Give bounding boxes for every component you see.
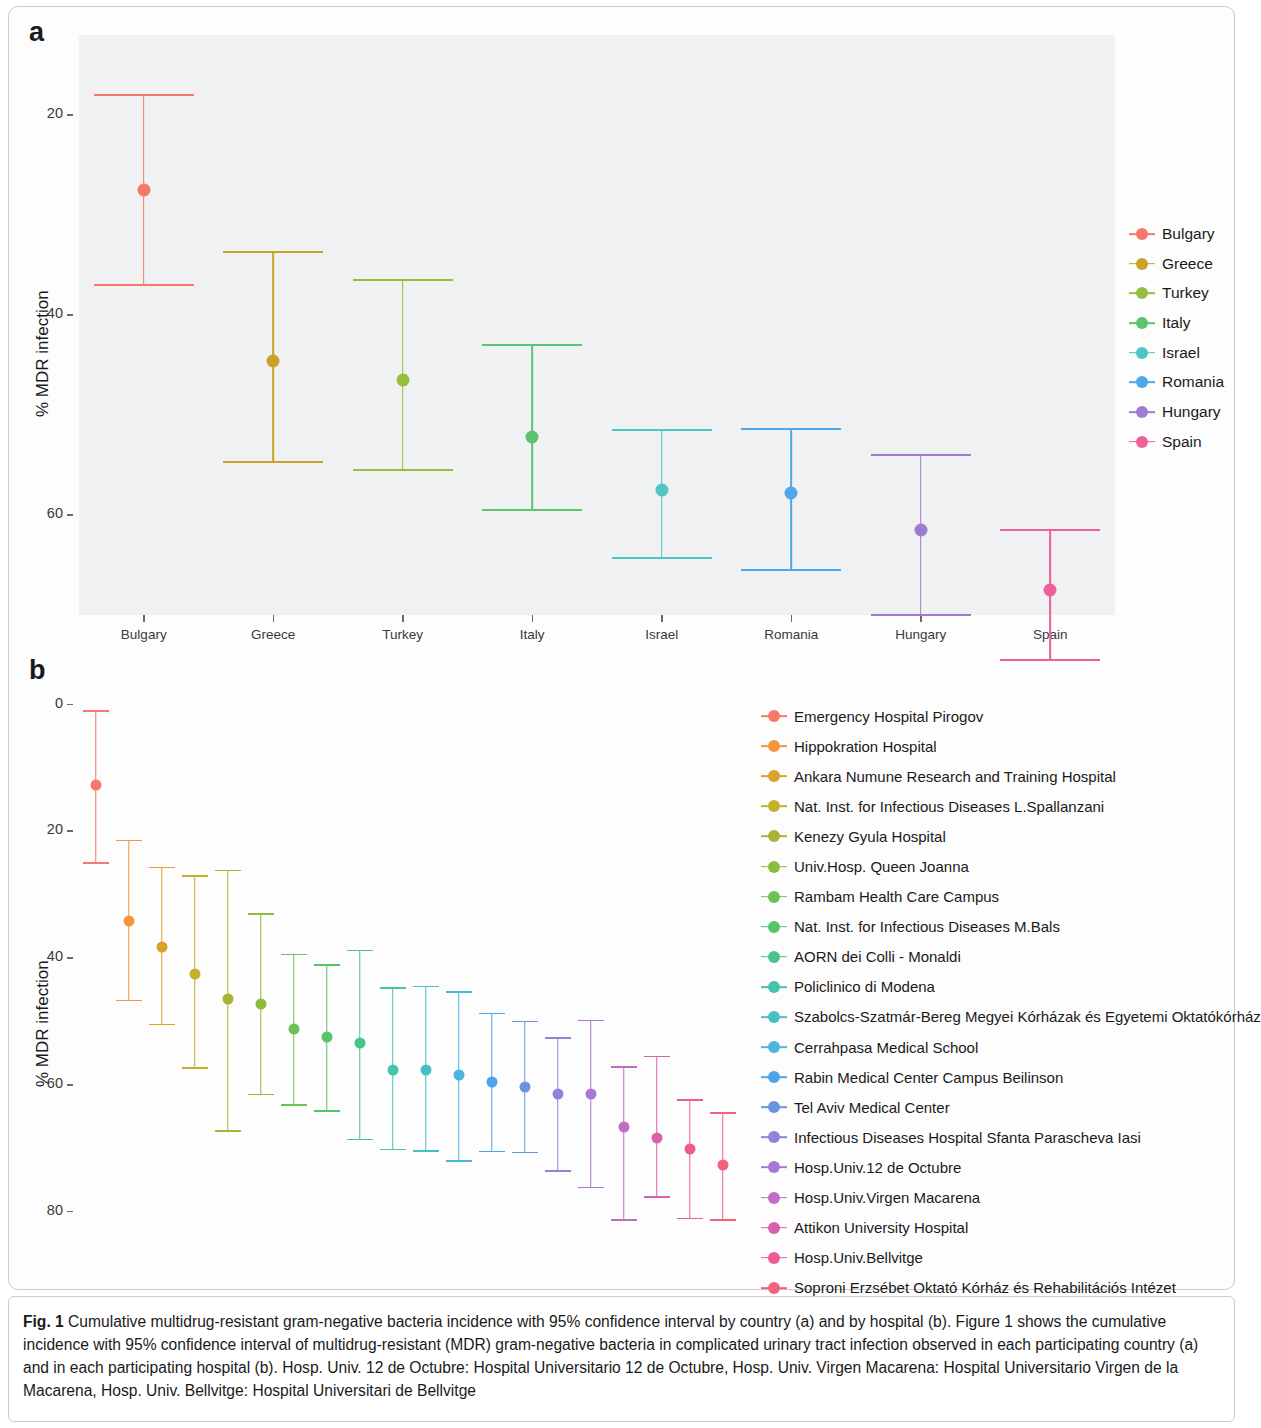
legend-marker-icon bbox=[761, 980, 787, 994]
legend-marker-icon bbox=[1129, 316, 1155, 330]
errorbar-cap-lower bbox=[83, 862, 109, 864]
panel-b-y-tick-mark bbox=[67, 957, 73, 959]
legend-marker-icon bbox=[1129, 405, 1155, 419]
errorbar-cap-upper bbox=[545, 1037, 571, 1039]
legend-item: Israel bbox=[1129, 338, 1224, 368]
legend-item: Hosp.Univ.12 de Octubre bbox=[761, 1152, 1261, 1182]
panel-b-y-tick-mark bbox=[67, 704, 73, 706]
panel-b-errorbar bbox=[545, 1038, 571, 1171]
legend-marker-icon bbox=[761, 739, 787, 753]
data-point-marker bbox=[123, 916, 134, 927]
errorbar-cap-lower bbox=[741, 569, 841, 571]
data-point-marker bbox=[453, 1070, 464, 1081]
legend-marker-icon bbox=[761, 1221, 787, 1235]
errorbar-cap-lower bbox=[413, 1150, 439, 1152]
data-point-marker bbox=[486, 1077, 497, 1088]
legend-marker-icon bbox=[761, 799, 787, 813]
legend-item: Infectious Diseases Hospital Sfanta Para… bbox=[761, 1122, 1261, 1152]
errorbar-cap-lower bbox=[677, 1218, 703, 1220]
errorbar-cap-upper bbox=[512, 1021, 538, 1023]
errorbar-line bbox=[623, 1067, 625, 1220]
panel-b-errorbar bbox=[215, 871, 241, 1131]
panel-a-x-tick-label: Romania bbox=[721, 627, 861, 642]
errorbar-line bbox=[689, 1100, 691, 1219]
errorbar-cap-upper bbox=[380, 987, 406, 989]
errorbar-cap-upper bbox=[710, 1112, 736, 1114]
legend-marker-icon bbox=[1129, 375, 1155, 389]
panel-a-y-tick-mark bbox=[67, 314, 73, 316]
panel-b-y-tick-label: 60 bbox=[27, 1075, 63, 1091]
errorbar-cap-upper bbox=[314, 964, 340, 966]
errorbar-cap-lower bbox=[215, 1130, 241, 1132]
legend-item-label: Spain bbox=[1162, 433, 1202, 451]
legend-marker-icon bbox=[761, 1070, 787, 1084]
data-point-marker bbox=[354, 1038, 365, 1049]
panel-b-y-tick-label: 80 bbox=[27, 1202, 63, 1218]
legend-item-label: Rambam Health Care Campus bbox=[794, 888, 999, 905]
panel-b-y-tick-mark bbox=[67, 1084, 73, 1086]
data-point-marker bbox=[717, 1160, 728, 1171]
legend-item: Rambam Health Care Campus bbox=[761, 882, 1261, 912]
panel-a-x-tick-label: Hungary bbox=[851, 627, 991, 642]
legend-item: Rabin Medical Center Campus Beilinson bbox=[761, 1062, 1261, 1092]
data-point-marker bbox=[288, 1024, 299, 1035]
errorbar-cap-lower bbox=[479, 1151, 505, 1153]
panel-b-y-tick-label: 40 bbox=[27, 948, 63, 964]
data-point-marker bbox=[156, 942, 167, 953]
panel-b-errorbar bbox=[578, 1020, 604, 1187]
panel-a-x-tick-label: Bulgary bbox=[74, 627, 214, 642]
panel-a-errorbar bbox=[612, 430, 712, 558]
legend-item-label: Italy bbox=[1162, 314, 1190, 332]
panel-a-x-tick-mark bbox=[920, 615, 922, 622]
legend-item: Bulgary bbox=[1129, 219, 1224, 249]
errorbar-cap-upper bbox=[413, 986, 439, 988]
legend-marker-icon bbox=[761, 1010, 787, 1024]
errorbar-cap-upper bbox=[215, 870, 241, 872]
legend-item-label: Tel Aviv Medical Center bbox=[794, 1099, 950, 1116]
errorbar-cap-lower bbox=[710, 1219, 736, 1221]
errorbar-cap-upper bbox=[248, 913, 274, 915]
panel-b-errorbar bbox=[314, 965, 340, 1111]
panel-a-x-tick-label: Israel bbox=[592, 627, 732, 642]
errorbar-cap-upper bbox=[482, 344, 582, 346]
data-point-marker bbox=[420, 1064, 431, 1075]
legend-item: Spain bbox=[1129, 427, 1224, 457]
errorbar-cap-lower bbox=[116, 1000, 142, 1002]
errorbar-cap-lower bbox=[545, 1170, 571, 1172]
legend-item-label: Rabin Medical Center Campus Beilinson bbox=[794, 1069, 1063, 1086]
legend-item: Italy bbox=[1129, 308, 1224, 338]
errorbar-cap-upper bbox=[741, 428, 841, 430]
legend-marker-icon bbox=[1129, 435, 1155, 449]
legend-item-label: Hosp.Univ.Bellvitge bbox=[794, 1249, 923, 1266]
data-point-marker bbox=[785, 487, 798, 500]
panel-a-x-tick-mark bbox=[273, 615, 275, 622]
data-point-marker bbox=[552, 1088, 563, 1099]
legend-item: AORN dei Colli - Monaldi bbox=[761, 942, 1261, 972]
legend-marker-icon bbox=[761, 829, 787, 843]
legend-item: Greece bbox=[1129, 249, 1224, 279]
panel-a-y-tick-label: 40 bbox=[27, 305, 63, 321]
legend-marker-icon bbox=[761, 920, 787, 934]
legend-item-label: AORN dei Colli - Monaldi bbox=[794, 948, 961, 965]
errorbar-cap-upper bbox=[479, 1013, 505, 1015]
panel-a-x-tick-mark bbox=[143, 615, 145, 622]
panel-a-y-tick-label: 20 bbox=[27, 105, 63, 121]
errorbar-cap-lower bbox=[482, 509, 582, 511]
errorbar-cap-upper bbox=[281, 954, 307, 956]
panel-a-x-tick-mark bbox=[791, 615, 793, 622]
caption-frame: Fig. 1 Cumulative multidrug-resistant gr… bbox=[8, 1296, 1235, 1422]
errorbar-cap-lower bbox=[182, 1067, 208, 1069]
legend-item-label: Nat. Inst. for Infectious Diseases L.Spa… bbox=[794, 798, 1104, 815]
legend-item: Tel Aviv Medical Center bbox=[761, 1092, 1261, 1122]
data-point-marker bbox=[1044, 584, 1057, 597]
figure-frame: a % MDR infection 604020 BulgaryGreeceTu… bbox=[8, 6, 1235, 1290]
errorbar-cap-lower bbox=[578, 1187, 604, 1189]
panel-b-legend: Emergency Hospital PirogovHippokration H… bbox=[761, 701, 1261, 1303]
errorbar-line bbox=[656, 1056, 658, 1197]
panel-a-errorbar bbox=[871, 455, 971, 615]
legend-item: Nat. Inst. for Infectious Diseases L.Spa… bbox=[761, 791, 1261, 821]
legend-marker-icon bbox=[761, 950, 787, 964]
errorbar-cap-lower bbox=[871, 614, 971, 616]
legend-item: Cerrahpasa Medical School bbox=[761, 1032, 1261, 1062]
legend-item-label: Nat. Inst. for Infectious Diseases M.Bal… bbox=[794, 918, 1060, 935]
